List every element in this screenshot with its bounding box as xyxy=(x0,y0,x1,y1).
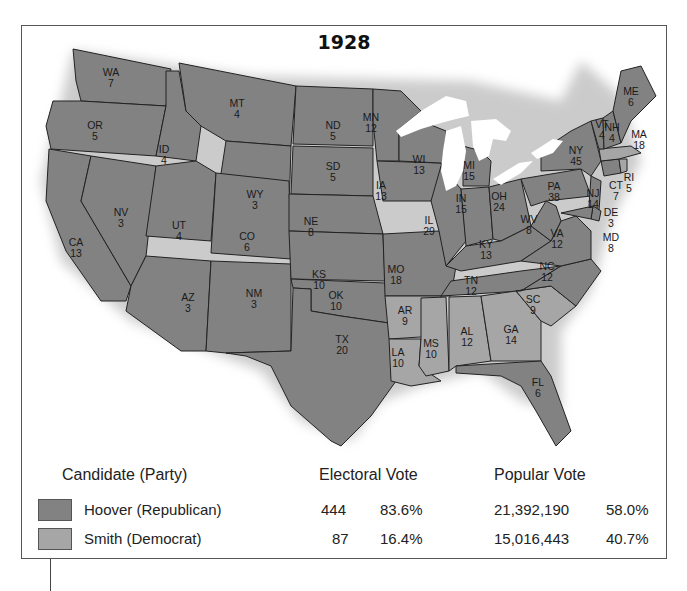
state-ne xyxy=(289,194,383,234)
state-label-tn: TN12 xyxy=(464,274,478,297)
legend-header-electoral: Electoral Vote xyxy=(319,466,418,484)
legend-row-smith: Smith (Democrat) 87 16.4% 15,016,443 40.… xyxy=(22,528,666,554)
state-label-il: IL29 xyxy=(423,214,435,237)
legend-header-popular: Popular Vote xyxy=(494,466,586,484)
state-nm xyxy=(206,261,291,353)
legend-pop-pct: 40.7% xyxy=(606,530,649,547)
state-az xyxy=(126,256,211,351)
hoover-swatch xyxy=(38,499,72,521)
state-co xyxy=(211,173,291,259)
state-label-la: LA10 xyxy=(392,346,405,369)
state-label-oh: OH24 xyxy=(491,190,507,213)
state-label-ca: CA13 xyxy=(69,236,84,259)
state-label-ks: KS10 xyxy=(312,268,326,291)
state-label-tx: TX20 xyxy=(335,333,348,356)
map-frame: 1928 WA7OR5CA13ID4NV3MT4WY3UT4AZ3CO6NM3N… xyxy=(21,25,667,559)
state-or xyxy=(46,101,166,156)
legend-candidate: Smith (Democrat) xyxy=(84,530,202,547)
state-ct xyxy=(601,159,621,176)
state-label-va: VA12 xyxy=(550,227,563,250)
state-label-mn: MN12 xyxy=(363,111,379,134)
state-label-ma: MA18 xyxy=(631,128,647,151)
state-ks xyxy=(289,231,385,281)
legend-ev: 444 xyxy=(321,501,346,518)
state-label-mi: MI15 xyxy=(463,159,475,182)
us-electoral-map: WA7OR5CA13ID4NV3MT4WY3UT4AZ3CO6NM3ND5SD5… xyxy=(22,26,668,466)
state-label-ny: NY45 xyxy=(569,144,584,167)
state-label-ri: RI5 xyxy=(624,171,635,194)
state-label-ga: GA14 xyxy=(503,323,518,346)
state-label-pa: PA38 xyxy=(547,180,560,203)
legend-ev-pct: 16.4% xyxy=(380,530,423,547)
state-label-nc: NC12 xyxy=(539,260,555,283)
state-wa xyxy=(73,49,171,106)
legend-pop: 21,392,190 xyxy=(494,501,569,518)
state-label-in: IN15 xyxy=(455,192,467,215)
margin-tick xyxy=(50,559,51,591)
legend-row-hoover: Hoover (Republican) 444 83.6% 21,392,190… xyxy=(22,499,666,525)
legend-header-candidate: Candidate (Party) xyxy=(62,466,187,484)
legend-candidate: Hoover (Republican) xyxy=(84,501,222,518)
state-label-ky: KY13 xyxy=(479,238,493,261)
state-label-al: AL12 xyxy=(461,325,474,348)
state-label-md: MD8 xyxy=(603,231,620,254)
state-label-ia: IA13 xyxy=(375,179,387,202)
smith-swatch xyxy=(38,528,72,550)
legend-ev: 87 xyxy=(332,530,349,547)
state-label-ok: OK10 xyxy=(328,289,343,312)
state-label-nj: NJ14 xyxy=(587,187,600,210)
state-label-ms: MS10 xyxy=(423,337,439,360)
legend-pop-pct: 58.0% xyxy=(606,501,649,518)
legend-pop: 15,016,443 xyxy=(494,530,569,547)
legend-ev-pct: 83.6% xyxy=(380,501,423,518)
state-label-wi: WI13 xyxy=(413,153,426,176)
